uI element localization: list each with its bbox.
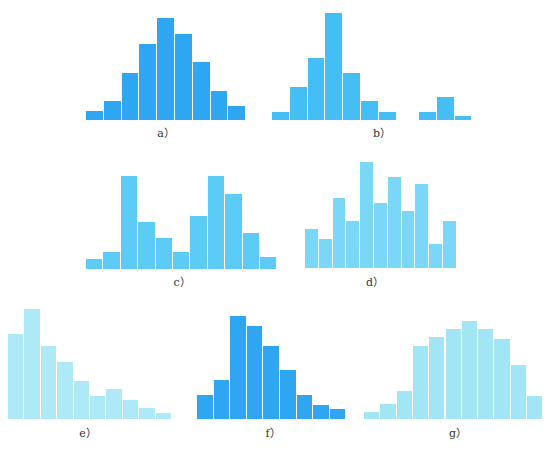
histogram-e-bar xyxy=(139,408,155,419)
histogram-b-bar xyxy=(290,87,308,120)
label-b: b） xyxy=(362,124,402,140)
histogram-e-bar xyxy=(156,413,172,419)
histogram-f-bar xyxy=(297,395,314,419)
histogram-g-bar xyxy=(380,404,396,419)
histogram-d-bar xyxy=(374,203,388,268)
histogram-e-bar xyxy=(57,362,73,419)
histogram-c-bar xyxy=(121,176,138,269)
histogram-d-bar xyxy=(429,244,443,268)
histogram-b-bar xyxy=(419,112,437,120)
histogram-c-bar xyxy=(156,238,173,269)
histogram-b-bar xyxy=(379,112,397,120)
histogram-d-bar xyxy=(388,177,402,268)
histogram-f-bar xyxy=(197,395,214,419)
histogram-a-bar xyxy=(157,18,175,120)
histogram-e-bar xyxy=(106,389,122,419)
histogram-f-bar xyxy=(247,326,264,419)
histogram-d-bar xyxy=(443,221,457,268)
histogram-c-bar xyxy=(225,194,242,269)
histogram-g-bar xyxy=(364,412,380,419)
histogram-b-bar xyxy=(455,116,473,120)
histogram-a-bar xyxy=(175,34,193,120)
label-g: g） xyxy=(438,424,478,440)
label-c: c） xyxy=(162,273,202,289)
histogram-f-bar xyxy=(214,380,231,419)
histogram-e-bar xyxy=(90,396,106,419)
histogram-a-bar xyxy=(193,62,211,120)
histogram-b-bar xyxy=(361,101,379,120)
histogram-g-bar xyxy=(511,365,527,419)
histogram-e-bar xyxy=(8,334,24,419)
histogram-g-bar xyxy=(494,339,510,419)
histogram-d-bar xyxy=(402,211,416,268)
histogram-c-bar xyxy=(86,259,103,269)
histogram-c-bar xyxy=(243,233,260,269)
histogram-c-bar xyxy=(190,216,207,269)
histogram-e-bar xyxy=(123,400,139,419)
histogram-c-bar xyxy=(103,252,120,269)
histogram-g-bar xyxy=(397,391,413,419)
histogram-g-bar xyxy=(446,329,462,419)
histogram-e-bar xyxy=(74,381,90,419)
histogram-b-bar xyxy=(325,13,343,120)
histogram-g-bar xyxy=(413,346,429,419)
histogram-e-bar xyxy=(24,309,40,419)
histogram-f-bar xyxy=(263,346,280,419)
histogram-f-bar xyxy=(280,370,297,419)
histogram-f-bar xyxy=(230,316,247,419)
histogram-d-bar xyxy=(415,184,429,268)
histogram-c-bar xyxy=(138,222,155,269)
histogram-a-bar xyxy=(122,73,140,120)
histogram-b-bar xyxy=(272,112,290,120)
histogram-d-bar xyxy=(360,162,374,268)
histogram-e-bar xyxy=(41,346,57,419)
histogram-g-bar xyxy=(429,337,445,419)
histogram-b-bar xyxy=(308,58,326,120)
histogram-c-bar xyxy=(260,257,277,269)
histogram-a-bar xyxy=(104,101,122,120)
histogram-f-bar xyxy=(330,409,347,419)
label-a: a） xyxy=(146,124,186,140)
histogram-f-bar xyxy=(313,405,330,419)
histogram-d-bar xyxy=(305,229,319,268)
histogram-c-bar xyxy=(173,252,190,269)
histogram-a-bar xyxy=(86,111,104,120)
histogram-d-bar xyxy=(319,239,333,268)
histogram-g-bar xyxy=(527,396,543,419)
label-d: d） xyxy=(355,273,395,289)
histogram-c-bar xyxy=(208,176,225,269)
histogram-d-bar xyxy=(333,198,347,268)
histogram-b-bar xyxy=(343,73,361,120)
histogram-a-bar xyxy=(139,44,157,120)
histogram-g-bar xyxy=(462,321,478,419)
label-f: f） xyxy=(253,424,293,440)
histogram-a-bar xyxy=(228,106,246,120)
label-e: e） xyxy=(68,424,108,440)
histogram-b-bar xyxy=(437,97,455,120)
histogram-g-bar xyxy=(478,329,494,419)
histogram-a-bar xyxy=(211,91,229,120)
histogram-d-bar xyxy=(346,221,360,268)
